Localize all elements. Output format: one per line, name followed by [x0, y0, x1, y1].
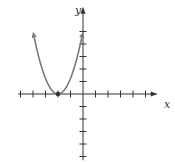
x-axis-arrow-icon [151, 92, 158, 97]
y-axis-arrow-icon [81, 7, 86, 14]
parabola-curve [34, 38, 82, 94]
curve-arrow-icon [32, 32, 37, 38]
vertex-point [56, 92, 61, 97]
curve-arrowheads [32, 32, 85, 38]
curve-arrow-icon [79, 32, 84, 38]
coordinate-plane: x y [0, 0, 175, 162]
axes [18, 7, 158, 161]
x-axis-label: x [164, 98, 171, 111]
y-axis-label: y [74, 4, 82, 17]
